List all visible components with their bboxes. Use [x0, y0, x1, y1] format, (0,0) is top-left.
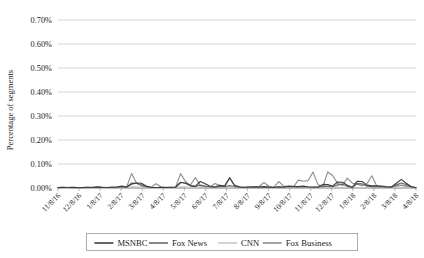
line-chart: 0.00%0.10%0.20%0.30%0.40%0.50%0.60%0.70%…	[0, 0, 424, 258]
legend-label-cnn[interactable]: CNN	[241, 238, 260, 248]
y-tick-label: 0.10%	[31, 160, 53, 169]
series-lines	[58, 172, 416, 188]
x-tick-label: 10/8/17	[271, 191, 294, 214]
x-tick-label: 11/8/16	[40, 191, 63, 214]
y-tick-label: 0.40%	[31, 88, 53, 97]
y-tick-label: 0.50%	[31, 64, 53, 73]
chart-container: 0.00%0.10%0.20%0.30%0.40%0.50%0.60%0.70%…	[0, 0, 424, 258]
y-tick-label: 0.70%	[31, 16, 53, 25]
x-tick-label: 5/8/17	[169, 191, 189, 211]
x-tick-label: 4/8/18	[400, 191, 420, 211]
x-tick-label: 2/8/18	[358, 191, 378, 211]
x-tick-label: 3/8/18	[379, 191, 399, 211]
y-tick-label: 0.20%	[31, 136, 53, 145]
y-axis-ticks: 0.00%0.10%0.20%0.30%0.40%0.50%0.60%0.70%	[31, 16, 53, 193]
x-tick-label: 6/8/17	[190, 191, 210, 211]
x-tick-label: 7/8/17	[211, 191, 231, 211]
chart-legend[interactable]: MSNBCFox NewsCNNFox Business	[86, 234, 357, 251]
legend-label-fox-business[interactable]: Fox Business	[286, 238, 333, 248]
y-tick-label: 0.00%	[31, 184, 53, 193]
legend-label-fox-news[interactable]: Fox News	[172, 238, 208, 248]
x-tick-label: 3/8/17	[127, 191, 147, 211]
x-axis-ticks: 11/8/1612/8/161/8/172/8/173/8/174/8/175/…	[40, 188, 421, 214]
x-tick-label: 4/8/17	[148, 191, 168, 211]
series-line-msnbc	[58, 178, 416, 188]
legend-label-msnbc[interactable]: MSNBC	[117, 238, 147, 248]
x-tick-label: 11/8/17	[293, 191, 316, 214]
x-tick-label: 8/8/17	[232, 191, 252, 211]
series-line-fox-business	[58, 172, 416, 188]
x-tick-label: 12/8/16	[61, 191, 84, 214]
gridlines	[58, 20, 416, 188]
y-tick-label: 0.60%	[31, 40, 53, 49]
x-tick-label: 12/8/17	[313, 191, 336, 214]
x-tick-label: 1/8/17	[84, 191, 104, 211]
x-tick-label: 9/8/17	[253, 191, 273, 211]
x-tick-label: 1/8/18	[337, 191, 357, 211]
y-tick-label: 0.30%	[31, 112, 53, 121]
x-tick-label: 2/8/17	[105, 191, 125, 211]
y-axis-title: Percentage of segments	[5, 70, 15, 150]
